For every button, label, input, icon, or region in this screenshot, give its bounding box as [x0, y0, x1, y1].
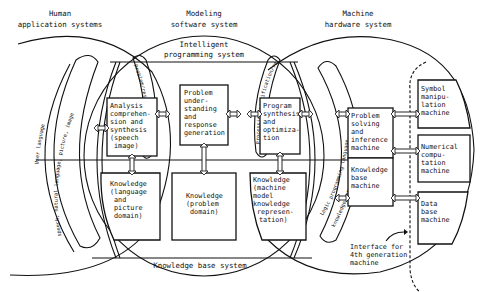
user-language-text: User language	[33, 123, 46, 164]
analysis-box: Analysis comprehen- sion and synthesis (…	[107, 98, 157, 156]
svg-text:base: base	[421, 208, 437, 216]
svg-text:hardware system: hardware system	[325, 20, 392, 29]
svg-text:base: base	[351, 174, 367, 182]
svg-text:domain): domain)	[190, 208, 219, 216]
svg-text:and: and	[114, 196, 126, 204]
program-synthesis-box: Program synthesis and optimiza- tion	[260, 98, 300, 154]
svg-text:solving: solving	[351, 120, 380, 128]
svg-text:tation): tation)	[259, 216, 288, 224]
knowledge-language-box: Knowledge (language and picture domain)	[101, 173, 160, 240]
svg-text:(speech: (speech	[110, 134, 139, 142]
svg-text:under-: under-	[184, 97, 209, 105]
svg-text:compu-: compu-	[421, 151, 446, 159]
fifth-generation-system-diagram: Human application systems Modeling softw…	[0, 0, 482, 292]
svg-text:comprehen-: comprehen-	[110, 110, 151, 118]
svg-text:application systems: application systems	[18, 20, 103, 29]
svg-text:optimiza-: optimiza-	[263, 126, 300, 134]
svg-text:standing: standing	[184, 105, 217, 113]
svg-text:software system: software system	[171, 20, 238, 29]
svg-text:machine: machine	[421, 167, 450, 175]
symbol-manipulation-box: Symbol manipu- lation machine	[418, 80, 470, 128]
svg-text:4th generation: 4th generation	[350, 251, 407, 259]
svg-text:machine: machine	[351, 144, 380, 152]
svg-text:machine: machine	[351, 182, 380, 190]
svg-text:image): image)	[114, 142, 139, 150]
svg-text:tion: tion	[263, 134, 279, 142]
svg-text:Knowledge: Knowledge	[110, 180, 147, 188]
svg-text:inference: inference	[351, 136, 388, 144]
svg-text:(machine: (machine	[253, 184, 286, 192]
fourth-generation-annotation: Interface for 4th generation machine	[350, 229, 408, 267]
modeling-system-label: Modeling software system	[171, 9, 238, 29]
problem-understanding-box: Problem under- standing and response gen…	[180, 85, 228, 145]
knowledge-machine-box: Knowledge (machine model knowledge repre…	[250, 173, 306, 240]
intelligent-programming-label: Intelligent programming system	[164, 40, 245, 59]
svg-text:Machine: Machine	[342, 9, 374, 18]
svg-text:generation: generation	[184, 129, 225, 137]
svg-text:domain): domain)	[114, 212, 143, 220]
svg-text:Intelligent: Intelligent	[180, 40, 229, 49]
machine-system-label: Machine hardware system	[325, 9, 392, 29]
svg-text:(language: (language	[110, 188, 147, 196]
svg-text:picture: picture	[114, 204, 143, 212]
svg-text:manipu-: manipu-	[421, 93, 450, 101]
svg-text:synthesis: synthesis	[110, 126, 147, 134]
svg-text:and: and	[184, 113, 196, 121]
svg-text:Symbol: Symbol	[421, 85, 446, 93]
knowledge-base-system-label: Knowledge base system	[153, 261, 247, 270]
svg-text:tation: tation	[421, 159, 446, 167]
svg-text:and: and	[351, 128, 363, 136]
database-machine-box: Data base machine	[418, 192, 468, 244]
svg-text:Interface for: Interface for	[350, 243, 403, 251]
svg-text:Modeling: Modeling	[186, 9, 222, 18]
user-language-media-text: speech, natural language, picture, image	[53, 112, 75, 237]
svg-text:sion and: sion and	[110, 118, 143, 126]
svg-text:and: and	[263, 118, 275, 126]
svg-text:Problem: Problem	[184, 89, 213, 97]
svg-text:synthesis: synthesis	[263, 110, 300, 118]
svg-text:Knowledge: Knowledge	[186, 192, 223, 200]
svg-text:Program: Program	[263, 102, 292, 110]
svg-text:machine: machine	[350, 259, 379, 267]
svg-text:Human: Human	[49, 9, 71, 18]
svg-text:(problem: (problem	[186, 200, 219, 208]
svg-text:Numerical: Numerical	[421, 143, 458, 151]
svg-text:programming system: programming system	[164, 50, 245, 59]
human-systems-label: Human application systems	[18, 9, 103, 29]
svg-text:machine: machine	[421, 109, 450, 117]
numerical-computation-box: Numerical compu- tation machine	[418, 135, 470, 182]
svg-text:Analysis: Analysis	[110, 102, 143, 110]
svg-text:knowledge: knowledge	[253, 200, 290, 208]
knowledge-base-machine-box: Knowledge base machine	[348, 158, 393, 206]
svg-text:Knowledge: Knowledge	[253, 176, 290, 184]
svg-text:model: model	[253, 192, 273, 200]
svg-text:Knowledge: Knowledge	[351, 166, 388, 174]
svg-text:lation: lation	[421, 101, 446, 109]
svg-text:response: response	[184, 121, 217, 129]
knowledge-problem-box: Knowledge (problem domain)	[172, 173, 236, 240]
problem-solving-box: Problem solving and inference machine	[348, 108, 393, 158]
svg-text:machine: machine	[421, 216, 450, 224]
svg-text:Problem: Problem	[351, 112, 380, 120]
svg-text:Data: Data	[421, 200, 437, 208]
svg-text:represen-: represen-	[257, 208, 294, 216]
